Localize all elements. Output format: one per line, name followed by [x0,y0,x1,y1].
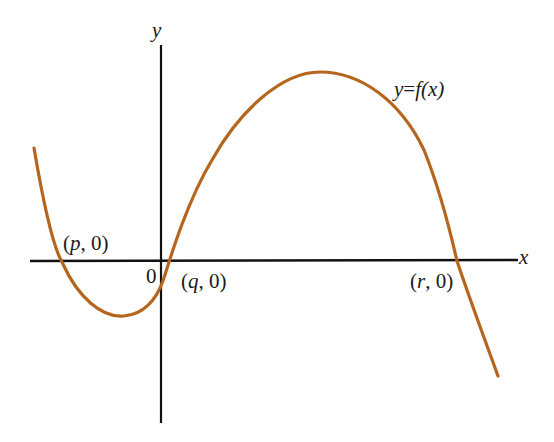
curve-label: y=f(x) [394,79,444,100]
x-axis [30,260,518,261]
curve-label-eq: = [403,77,415,101]
function-graph: y x 0 y=f(x) (p, 0) (q, 0) (r, 0) [0,0,554,442]
point-label-r: (r, 0) [410,271,453,292]
x-axis-label: x [519,247,528,268]
point-r-name: r [417,269,425,293]
curve-label-arg: (x) [421,77,444,101]
origin-label: 0 [146,266,157,287]
y-axis-label: y [152,20,161,41]
point-label-q: (q, 0) [181,271,227,292]
graph-canvas [0,0,554,442]
curve-label-lhs: y [394,77,403,101]
point-label-p: (p, 0) [63,233,109,254]
curve-f [34,72,498,376]
point-q-name: q [188,269,199,293]
point-p-name: p [70,231,81,255]
